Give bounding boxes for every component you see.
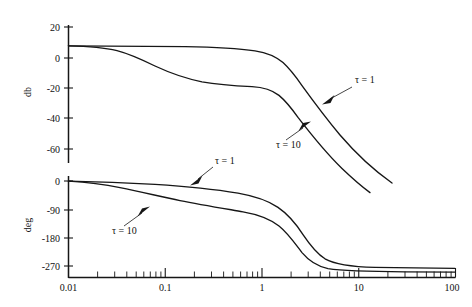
xtick-label-3: 10	[354, 282, 364, 293]
magnitude-annotation-tau-10-arrowhead	[299, 122, 312, 132]
magnitude-y-axis-label: db	[22, 87, 33, 97]
magnitude-annotation-tau-10-label: τ = 10	[276, 139, 301, 150]
magnitude-ytick-label-2: -20	[47, 83, 60, 94]
phase-ytick-label-0: 0	[55, 176, 60, 187]
phase-annotation-tau-1-arrowhead	[190, 176, 203, 186]
magnitude-ytick-label-3: -40	[47, 113, 60, 124]
bode-plot-figure: 20 0 -20 -40 -60 db τ = 1 τ = 10	[0, 0, 472, 307]
phase-y-axis-label: deg	[22, 218, 33, 232]
magnitude-annotation-tau-1: τ = 1	[322, 74, 375, 105]
phase-annotation-tau-10: τ = 10	[112, 207, 150, 237]
phase-ytick-label-2: -180	[42, 233, 60, 244]
phase-annotation-tau-10-label: τ = 10	[112, 225, 137, 236]
phase-annotation-tau-10-arrowhead	[138, 207, 151, 217]
phase-ytick-label-3: -270	[42, 261, 60, 272]
xtick-label-2: 1	[260, 282, 265, 293]
magnitude-panel: 20 0 -20 -40 -60 db τ = 1 τ = 10	[22, 22, 392, 193]
phase-annotation-tau-1: τ = 1	[190, 155, 235, 186]
xtick-label-0: 0.01	[60, 282, 78, 293]
xtick-label-4: 100	[445, 282, 460, 293]
magnitude-ytick-label-1: 0	[55, 53, 60, 64]
magnitude-curve-tau-10	[69, 46, 371, 193]
phase-annotation-tau-1-label: τ = 1	[215, 155, 235, 166]
xtick-label-1: 0.1	[159, 282, 172, 293]
magnitude-annotation-tau-10: τ = 10	[276, 122, 311, 151]
magnitude-annotation-tau-1-label: τ = 1	[355, 74, 375, 85]
magnitude-ytick-label-0: 20	[50, 22, 60, 33]
phase-annotation-tau-1-leader	[198, 167, 213, 179]
phase-panel: 0 -90 -180 -270 deg	[22, 155, 460, 293]
magnitude-annotation-tau-1-arrowhead	[322, 95, 335, 105]
magnitude-ytick-label-4: -60	[47, 144, 60, 155]
phase-ytick-label-1: -90	[47, 205, 60, 216]
